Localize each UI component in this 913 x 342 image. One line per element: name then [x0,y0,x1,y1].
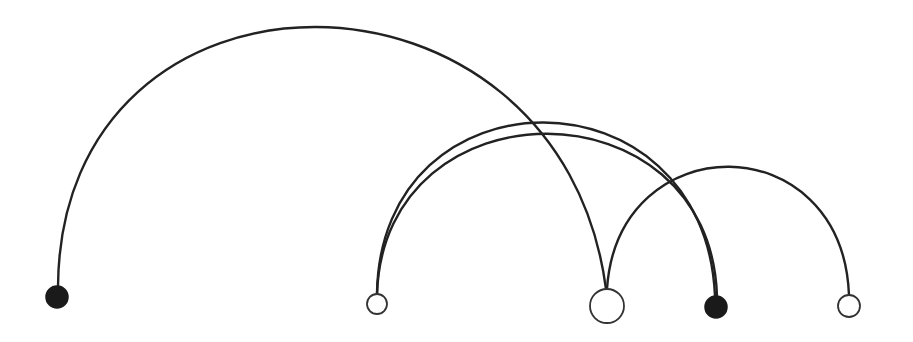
edge-arc [58,27,606,289]
nodes-group [46,286,860,323]
node-open-large [590,289,624,323]
edge-arc [377,134,717,296]
edge-arc [377,122,715,296]
edges-group [58,27,849,296]
arc-diagram [0,0,913,342]
node-filled [705,296,727,318]
node-filled [46,286,68,308]
node-open [838,295,860,317]
edge-arc [607,167,849,295]
node-open [367,294,387,314]
